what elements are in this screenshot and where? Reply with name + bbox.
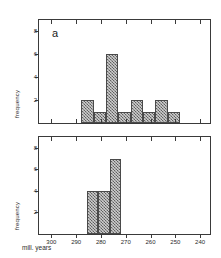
y-axis-tick-label: 6 (34, 51, 37, 57)
x-axis-title: mill. years (22, 244, 51, 251)
x-axis-tick-top (175, 20, 176, 24)
x-axis-tick-top (101, 20, 102, 24)
histogram-figure: 2468 a frequency 2468 300290280270260250… (0, 0, 221, 258)
x-axis-tick-top (126, 20, 127, 24)
panel-a-plot-frame: 2468 (38, 19, 211, 124)
x-axis-tick-label: 250 (170, 239, 180, 245)
y-axis-tick-label: 2 (34, 97, 37, 103)
x-axis-tick-label: 240 (195, 239, 205, 245)
x-axis-tick (101, 119, 102, 123)
x-axis-tick (200, 119, 201, 123)
panel-b-plot-frame: 2468 300290280270260250240 (38, 136, 211, 235)
panel-b-y-axis-title: frequency (14, 202, 20, 230)
x-axis-tick-top (76, 137, 77, 141)
x-axis-tick (151, 234, 152, 238)
histogram-bar (168, 112, 180, 123)
x-axis-tick-top (51, 137, 52, 141)
x-axis-tick (126, 234, 127, 238)
histogram-bar (143, 112, 155, 123)
x-axis-tick (200, 234, 201, 238)
histogram-bar (98, 191, 109, 234)
x-axis-tick-top (126, 137, 127, 141)
x-axis-tick (51, 234, 52, 238)
x-axis-tick (175, 234, 176, 238)
x-axis-tick-top (151, 20, 152, 24)
panel-a-plot-area (39, 20, 210, 123)
y-axis-tick-label: 4 (34, 74, 37, 80)
y-axis-tick-label: 6 (34, 166, 37, 172)
x-axis-tick-label: 280 (96, 239, 106, 245)
histogram-bar (81, 100, 93, 123)
y-axis-tick-label: 4 (34, 188, 37, 194)
x-axis-tick-top (175, 137, 176, 141)
x-axis-tick-top (76, 20, 77, 24)
histogram-bar (87, 191, 98, 234)
x-axis-tick-top (200, 20, 201, 24)
histogram-bar (118, 112, 130, 123)
x-axis-tick-label: 260 (146, 239, 156, 245)
x-axis-tick (175, 119, 176, 123)
y-axis-tick-label: 2 (34, 209, 37, 215)
histogram-bar (110, 159, 121, 234)
y-axis-tick-label: 8 (34, 28, 37, 34)
panel-a-y-axis-title: frequency (14, 90, 20, 118)
histogram-bar (94, 112, 106, 123)
x-axis-tick (101, 234, 102, 238)
x-axis-tick-label: 270 (121, 239, 131, 245)
x-axis-tick-top (200, 137, 201, 141)
x-axis-tick-top (51, 20, 52, 24)
x-axis-tick-top (151, 137, 152, 141)
y-axis-tick-label: 8 (34, 145, 37, 151)
panel-b: 2468 300290280270260250240 b frequency (0, 130, 221, 258)
histogram-bar (106, 54, 118, 123)
panel-a: 2468 a frequency (0, 0, 221, 130)
panel-a-letter: a (52, 28, 58, 39)
x-axis-tick-top (101, 137, 102, 141)
histogram-bar (131, 100, 143, 123)
x-axis-tick (76, 234, 77, 238)
x-axis-tick (151, 119, 152, 123)
histogram-bar (155, 100, 167, 123)
x-axis-tick (76, 119, 77, 123)
panel-b-plot-area (39, 137, 210, 234)
x-axis-tick-label: 290 (71, 239, 81, 245)
x-axis-tick (51, 119, 52, 123)
x-axis-tick (126, 119, 127, 123)
